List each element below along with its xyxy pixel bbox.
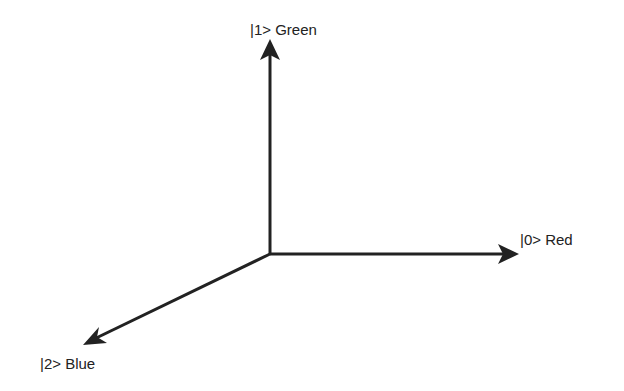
axis-2-blue-arrow — [90, 254, 270, 341]
axis-2-label: |2> Blue — [40, 356, 95, 371]
axis-0-label: |0> Red — [520, 232, 573, 247]
axis-1-label: |1> Green — [250, 22, 317, 37]
basis-vector-diagram — [0, 0, 624, 391]
